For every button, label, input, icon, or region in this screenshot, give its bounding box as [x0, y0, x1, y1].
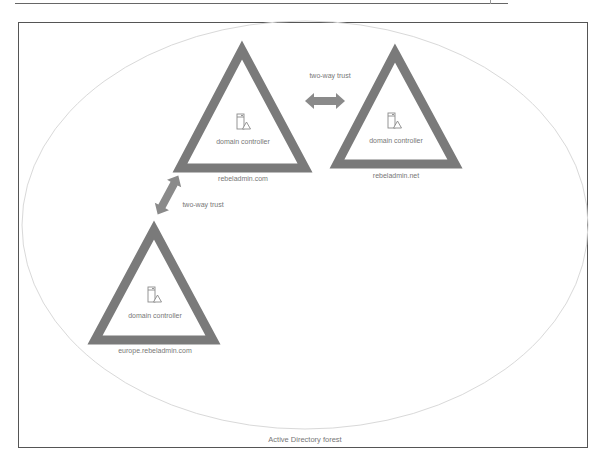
domain-name-label: rebeladmin.com	[218, 175, 268, 182]
two-way-trust-arrow-horizontal	[305, 93, 345, 109]
domain-controller-label: domain controller	[128, 312, 182, 319]
domain-triangle-rebeladmin-net	[337, 53, 455, 164]
domain-controller-label: domain controller	[216, 138, 270, 145]
domain-controller-icon	[148, 287, 162, 302]
domain-name-label: rebeladmin.net	[373, 172, 419, 179]
forest-label: Active Directory forest	[268, 435, 341, 444]
domain-controller-icon	[237, 114, 251, 129]
trust-label: two-way trust	[182, 201, 223, 208]
two-way-trust-arrow-diagonal	[151, 172, 186, 218]
domain-controller-label: domain controller	[369, 137, 423, 144]
forest-diagram	[0, 0, 606, 466]
domain-triangle-rebeladmin-com	[180, 50, 305, 168]
domain-controller-icon	[388, 113, 402, 128]
forest-ellipse	[22, 21, 588, 429]
trust-label: two-way trust	[309, 72, 350, 79]
domain-triangle-europe-rebeladmin-com	[95, 230, 213, 340]
domain-name-label: europe.rebeladmin.com	[118, 347, 192, 354]
